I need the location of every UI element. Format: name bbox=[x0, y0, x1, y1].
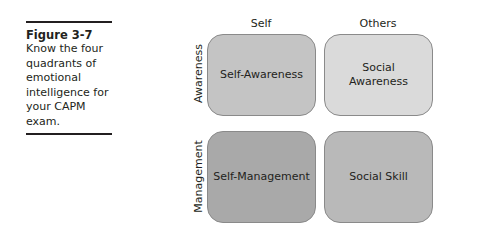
quadrant-social-skill: Social Skill bbox=[324, 131, 433, 223]
quadrant-label: Social Awareness bbox=[344, 61, 414, 89]
column-header-others: Others bbox=[324, 17, 432, 30]
quadrant-social-awareness: Social Awareness bbox=[324, 34, 433, 116]
row-header-awareness: Awareness bbox=[192, 34, 205, 114]
column-header-self: Self bbox=[207, 17, 315, 30]
quadrant-label: Social Skill bbox=[349, 170, 408, 184]
quadrant-self-awareness: Self-Awareness bbox=[207, 34, 316, 116]
caption-text: Know the four quadrants of emotional int… bbox=[26, 42, 112, 129]
figure-caption: Figure 3-7 Know the four quadrants of em… bbox=[26, 21, 112, 135]
caption-top-rule bbox=[26, 21, 112, 23]
figure-label: Figure 3-7 bbox=[26, 28, 112, 42]
caption-bottom-rule bbox=[26, 133, 112, 135]
row-header-management: Management bbox=[192, 137, 205, 217]
quadrant-label: Self-Awareness bbox=[220, 68, 303, 82]
quadrant-self-management: Self-Management bbox=[207, 131, 316, 223]
quadrant-label: Self-Management bbox=[213, 170, 310, 184]
